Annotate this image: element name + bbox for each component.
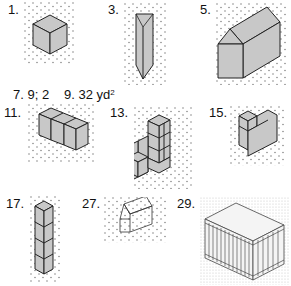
exercise-number-3: 3.	[108, 3, 119, 17]
exercise-number-27: 27.	[82, 197, 100, 211]
exercise-number-29: 29.	[177, 197, 195, 211]
house-prism-figure	[216, 3, 286, 85]
exercise-number-17: 17.	[6, 197, 24, 211]
answer-7-value: 9; 2	[27, 87, 49, 102]
answer-7-number: 7.	[13, 87, 24, 102]
answer-9-value: 32 yd	[78, 87, 110, 102]
house-wireframe-figure	[104, 197, 168, 243]
l-shaped-solid-figure	[230, 106, 286, 166]
exercise-number-13: 13.	[110, 106, 128, 120]
exercise-number-15: 15.	[209, 106, 227, 120]
answer-9-superscript: 2	[110, 88, 114, 97]
stepped-cube-stack-figure	[134, 107, 194, 189]
exercise-number-5: 5.	[200, 3, 211, 17]
isometric-cube-figure	[24, 2, 76, 64]
answer-9: 9. 32 yd2	[64, 88, 115, 102]
three-cubes-row-figure	[28, 104, 94, 162]
answer-9-number: 9.	[64, 87, 75, 102]
exercise-number-11: 11.	[4, 106, 21, 120]
answer-7: 7. 9; 2	[13, 88, 49, 102]
triangular-prism-figure	[124, 3, 168, 85]
four-cube-tower-figure	[30, 196, 60, 282]
exercise-number-1: 1.	[8, 3, 19, 17]
ribbed-box-figure	[200, 197, 290, 285]
